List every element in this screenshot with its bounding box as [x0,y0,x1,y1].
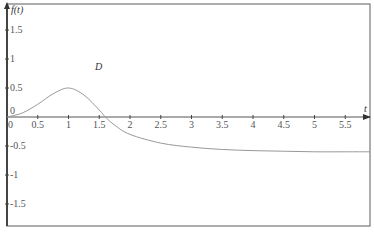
x-tick-label: 0.5 [32,119,45,130]
y-tick-label: 0.5 [10,82,23,93]
x-tick-label: 3 [189,119,194,130]
x-tick-label: 2.5 [155,119,168,130]
x-axis-title: t [364,103,367,114]
y-tick-label: -1.5 [10,198,26,209]
y-axis-arrow-icon [4,2,10,9]
plot-frame [7,4,370,226]
x-tick-label: 5 [312,119,317,130]
y-tick-label: -1 [10,169,18,180]
x-tick-label: 1 [66,119,71,130]
y-tick-label: 1 [10,53,15,64]
x-tick-label: 4 [251,119,256,130]
y-tick-label: 1.5 [10,24,23,35]
x-tick-label: 3.5 [216,119,229,130]
x-tick-label: 2 [128,119,133,130]
x-tick-label: 1.5 [93,119,106,130]
x-tick-label: 5.5 [339,119,352,130]
curve-annotation: D [94,61,103,72]
y-axis-title: f(t) [11,4,24,16]
y-tick-label: 0 [10,105,15,116]
chart: 00.511.522.533.544.555.5 1.510.50-0.5-1-… [0,0,374,237]
y-tick-label: -0.5 [10,140,26,151]
x-tick-label: 4.5 [278,119,291,130]
x-tick-label: 0 [8,119,13,130]
